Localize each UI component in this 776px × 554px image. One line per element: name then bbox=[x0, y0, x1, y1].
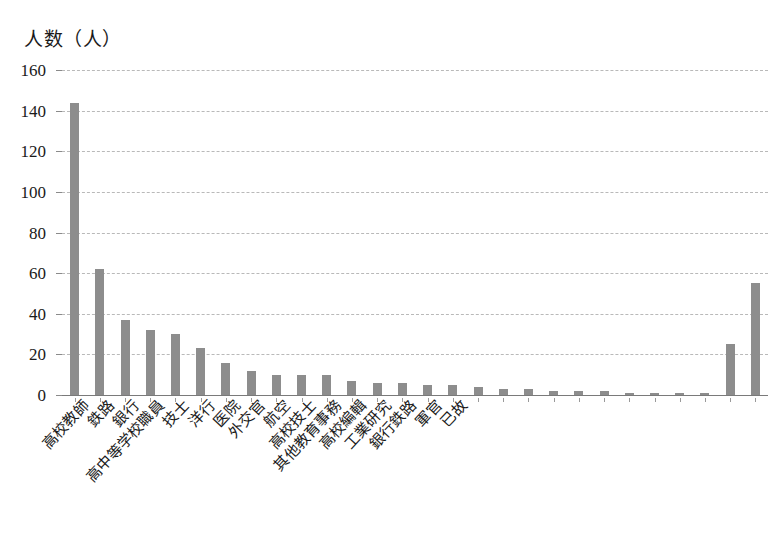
bar bbox=[247, 371, 256, 395]
x-axis-tick-mark bbox=[604, 398, 605, 402]
bar bbox=[297, 375, 306, 395]
y-axis-tick-label: 140 bbox=[0, 102, 46, 119]
x-axis-tick-label: 鉄路 bbox=[85, 398, 116, 430]
bar bbox=[146, 330, 155, 395]
x-axis-tick-mark bbox=[705, 398, 706, 402]
x-axis-tick-mark bbox=[730, 398, 731, 402]
y-axis-tick-label: 0 bbox=[0, 387, 46, 404]
y-axis-tick-label: 40 bbox=[0, 305, 46, 322]
bar-series bbox=[62, 70, 768, 395]
bar bbox=[474, 387, 483, 395]
y-axis-tick-label: 80 bbox=[0, 224, 46, 241]
y-axis-tick-label: 60 bbox=[0, 265, 46, 282]
x-axis-tick-mark bbox=[503, 398, 504, 402]
x-axis-tick-mark bbox=[655, 398, 656, 402]
gridline bbox=[62, 395, 768, 396]
bar bbox=[373, 383, 382, 395]
x-axis-tick-mark bbox=[554, 398, 555, 402]
y-axis-tick-label: 20 bbox=[0, 346, 46, 363]
bar bbox=[574, 391, 583, 395]
bar bbox=[272, 375, 281, 395]
bar bbox=[448, 385, 457, 395]
bar bbox=[70, 103, 79, 396]
chart-axis-title: 人数（人） bbox=[24, 24, 122, 51]
bar bbox=[524, 389, 533, 395]
bar bbox=[95, 269, 104, 395]
bar-chart: 人数（人） 020406080100120140160 高校教師鉄路銀行高中等学… bbox=[0, 0, 776, 554]
bar bbox=[171, 334, 180, 395]
bar bbox=[600, 391, 609, 395]
y-axis-tick-label: 120 bbox=[0, 143, 46, 160]
bar bbox=[650, 393, 659, 395]
bar bbox=[121, 320, 130, 395]
y-axis-tick-label: 160 bbox=[0, 62, 46, 79]
x-axis-tick-mark bbox=[478, 398, 479, 402]
bar bbox=[347, 381, 356, 395]
x-axis-tick-mark bbox=[579, 398, 580, 402]
bar bbox=[675, 393, 684, 395]
x-axis-tick-label: 技士 bbox=[161, 398, 192, 430]
x-axis-tick-label: 軍官 bbox=[413, 398, 444, 430]
bar bbox=[221, 363, 230, 396]
x-axis-tick-label: 已故 bbox=[438, 398, 469, 430]
x-axis-tick-label: 洋行 bbox=[186, 398, 217, 430]
x-axis-tick-mark bbox=[680, 398, 681, 402]
bar bbox=[751, 283, 760, 395]
x-axis-labels: 高校教師鉄路銀行高中等学校職員技士洋行医院外交官航空高校技士其他教育事務高校編輯… bbox=[62, 398, 768, 548]
bar bbox=[700, 393, 709, 395]
y-axis-tick-mark bbox=[56, 395, 62, 396]
bar bbox=[423, 385, 432, 395]
plot-area: 020406080100120140160 bbox=[62, 70, 768, 395]
x-axis-tick-mark bbox=[629, 398, 630, 402]
bar bbox=[625, 393, 634, 395]
x-axis-tick-mark bbox=[528, 398, 529, 402]
bar bbox=[549, 391, 558, 395]
y-axis-tick-label: 100 bbox=[0, 183, 46, 200]
bar bbox=[398, 383, 407, 395]
bar bbox=[196, 348, 205, 395]
bar bbox=[322, 375, 331, 395]
bar bbox=[726, 344, 735, 395]
x-axis-tick-mark bbox=[755, 398, 756, 402]
bar bbox=[499, 389, 508, 395]
x-axis-tick-label: 高校教師 bbox=[40, 398, 92, 452]
